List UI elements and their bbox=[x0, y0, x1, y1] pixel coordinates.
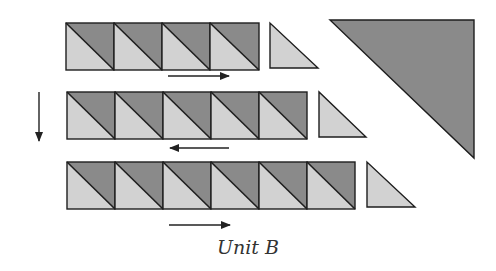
row-3-end-triangle bbox=[367, 162, 415, 207]
hst-square bbox=[211, 92, 259, 139]
hst-square bbox=[162, 23, 210, 70]
hst-square bbox=[259, 162, 307, 209]
caption-container: Unit B bbox=[0, 236, 496, 258]
hst-square bbox=[163, 162, 211, 209]
row-1-end-triangle bbox=[270, 23, 318, 68]
hst-square bbox=[67, 92, 115, 139]
row-2-end-triangle bbox=[319, 92, 366, 137]
row-2-squares bbox=[67, 92, 307, 139]
hst-square bbox=[66, 23, 114, 70]
row-1-squares bbox=[66, 23, 259, 70]
hst-square bbox=[115, 92, 163, 139]
row-3-squares bbox=[67, 162, 355, 209]
hst-square bbox=[307, 162, 355, 209]
hst-square bbox=[211, 162, 259, 209]
hst-square bbox=[259, 92, 307, 139]
hst-square bbox=[115, 162, 163, 209]
hst-square bbox=[114, 23, 162, 70]
hst-square bbox=[67, 162, 115, 209]
hst-square bbox=[210, 23, 259, 70]
hst-square bbox=[163, 92, 211, 139]
diagram-caption: Unit B bbox=[217, 236, 279, 258]
unit-b-diagram bbox=[0, 0, 496, 271]
